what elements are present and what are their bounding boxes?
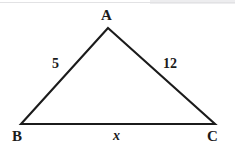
- side-label-bc: x: [113, 129, 120, 143]
- vertex-label-b: B: [12, 129, 22, 144]
- vertex-label-a: A: [101, 8, 112, 23]
- triangle-outline: [21, 28, 215, 124]
- vertex-label-c: C: [207, 129, 218, 144]
- side-label-ac: 12: [163, 57, 177, 71]
- side-label-ab: 5: [52, 57, 59, 71]
- diagram-canvas: A B C 5 12 x: [0, 0, 235, 151]
